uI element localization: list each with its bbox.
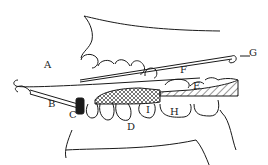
wire-G — [80, 56, 236, 80]
label-C: C — [69, 110, 77, 120]
dental-appliance-diagram: A B C D E F G H I — [0, 0, 268, 165]
lower-jaw-outline — [66, 140, 215, 165]
coil-C — [76, 98, 84, 114]
lower-tooth-D — [116, 104, 131, 120]
lower-tooth — [100, 102, 114, 120]
upper-tooth-E — [165, 79, 189, 88]
label-B: B — [48, 99, 55, 109]
line-art — [14, 16, 250, 165]
wire-B-hook — [15, 86, 30, 94]
label-E: E — [193, 81, 200, 91]
crosshatch-region — [95, 88, 160, 104]
wire-G-inner — [80, 59, 232, 82]
diagram-drawing — [0, 0, 268, 165]
chin-outline — [65, 130, 72, 158]
label-G: G — [249, 48, 257, 58]
label-I: I — [146, 105, 150, 115]
label-A: A — [44, 60, 51, 70]
label-F: F — [180, 65, 187, 75]
upper-tooth — [98, 60, 114, 66]
neck-outline — [220, 110, 236, 150]
label-D: D — [127, 122, 135, 132]
lower-molar — [194, 100, 219, 116]
label-H: H — [170, 107, 179, 117]
upper-lip-outline — [81, 16, 92, 58]
upper-tooth — [115, 60, 130, 66]
upper-jaw-outline — [84, 16, 220, 31]
upper-molar — [205, 78, 238, 80]
upper-tooth — [81, 54, 98, 68]
wire-A — [14, 78, 200, 87]
